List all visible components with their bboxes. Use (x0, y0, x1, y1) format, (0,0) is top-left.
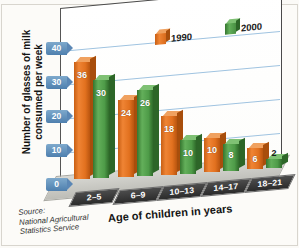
x-category-label: 18–21 (258, 176, 283, 191)
y-tick-label-10: 10 (46, 144, 67, 157)
x-category-label: 2–5 (86, 191, 101, 205)
legend-item-1990: 1990 (155, 27, 192, 48)
x-category-label: 14–17 (214, 180, 239, 195)
bar-value-2000-6-9: 26 (137, 98, 153, 108)
bar-front-face (266, 159, 282, 168)
bar-value-2000-2-5: 30 (93, 88, 109, 98)
bar-value-2000-18-21: 2 (266, 148, 282, 158)
legend-item-2000: 2000 (225, 16, 262, 37)
y-axis-title: Number of glasses of milk consumed per w… (21, 17, 45, 167)
bar-side-face (196, 134, 202, 171)
y-tick-label-20: 20 (46, 110, 67, 123)
bar-front-face (204, 138, 220, 172)
bar-side-face (109, 74, 115, 175)
legend-label-2000: 2000 (241, 21, 262, 34)
milk-consumption-bar-chart: 40 30 20 10 0 36 30 24 26 18 10 (0, 0, 299, 248)
legend-swatch-1990-icon (155, 33, 166, 45)
bar-value-2000-14-17: 8 (223, 150, 239, 160)
bar-value-1990-18-21: 6 (247, 154, 263, 164)
source-note: Source: National Agricultural Statistics… (18, 203, 90, 237)
bar-value-1990-2-5: 36 (74, 70, 90, 80)
bar-value-1990-10-13: 18 (161, 124, 177, 134)
bar-value-2000-10-13: 10 (180, 148, 196, 158)
bar-side-face (239, 138, 245, 168)
x-category-label: 10–13 (170, 184, 195, 199)
x-category-label: 6–9 (130, 189, 145, 203)
y-tick-label-0: 0 (46, 178, 67, 191)
bar-1990-14-17 (204, 138, 220, 172)
bar-side-face (153, 84, 159, 173)
y-axis-title-line2: consumed per week (33, 17, 45, 167)
y-axis-title-line1: Number of glasses of milk (21, 17, 33, 167)
y-tick-label-40: 40 (46, 42, 67, 55)
legend-label-1990: 1990 (171, 31, 192, 44)
bar-2000-18-21 (266, 159, 282, 168)
y-tick-label-30: 30 (46, 76, 67, 89)
legend-swatch-2000-icon (225, 23, 236, 35)
bar-value-1990-6-9: 24 (118, 108, 134, 118)
bar-value-1990-14-17: 10 (204, 145, 220, 155)
